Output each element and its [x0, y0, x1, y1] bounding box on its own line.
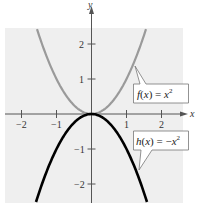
x-tick-label: 1: [124, 119, 129, 130]
y-tick-label: −2: [74, 179, 85, 190]
x-axis-arrow-icon: [180, 112, 188, 117]
x-tick-label: −2: [16, 119, 27, 130]
h-label: h(x) = −x2: [136, 134, 181, 148]
x-tick-label: 2: [159, 119, 164, 130]
f-label: f(x) = x2: [137, 87, 173, 101]
x-axis-label: x: [189, 108, 195, 119]
y-tick-label: −1: [74, 144, 85, 155]
y-axis-label: y: [87, 0, 93, 10]
chart: x y −2 −1 1 2 2 1 −1 −2 f(x) = x2 h(x) =…: [0, 0, 199, 213]
x-tick-label: −1: [51, 119, 62, 130]
y-tick-label: 1: [79, 74, 84, 85]
y-tick-label: 2: [79, 39, 84, 50]
